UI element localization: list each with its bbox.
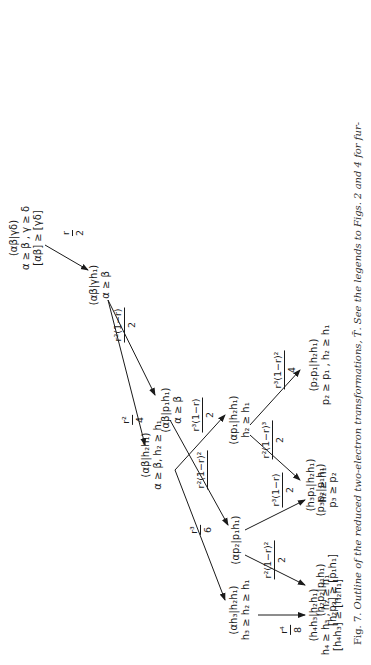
edge-weight-e-root: r2 xyxy=(60,230,85,236)
edge-arrow xyxy=(175,470,225,600)
caption-label: Fig. 7. xyxy=(352,613,363,645)
node-n-h4h3-h2h1: (h₄h₃|h₂h₁)h₄ ≥ h₃ , h₂ ≥ h₁[h₄h₃] ≥ [h₂… xyxy=(308,575,344,655)
node-label: α ≥ β, h₂ ≥ h₁ xyxy=(152,420,164,490)
node-n-h3p1-h2h1: (h₃p₁|h₂h₁)h₂ ≥ h₁ xyxy=(305,459,329,512)
edge-weight-e-up3: r²(1−r)²2 xyxy=(262,541,287,580)
fraction-denominator: 2 xyxy=(125,307,137,342)
fraction-denominator: 4 xyxy=(133,415,145,425)
node-label: h₃ ≥ h₂ ≥ h₁ xyxy=(240,580,252,641)
node-n-ap2-p1h1: (αp₂|p₁h₁) xyxy=(230,516,242,565)
node-label: p₂ ≥ p₁ , h₂ ≥ h₁ xyxy=(320,325,332,405)
node-label: (h₄h₃|h₂h₁) xyxy=(308,575,320,655)
fraction-denominator: 2 xyxy=(203,397,215,432)
diagram-stage: (αβ|γδ)α ≥ β , γ ≥ δ[αβ] ≥ [γδ](αβ|γh₁)α… xyxy=(0,0,371,665)
node-n-ab-h2h1: (αβ|h₂h₁)α ≥ β, h₂ ≥ h₁ xyxy=(140,420,164,490)
node-label: (h₃p₁|h₂h₁) xyxy=(305,459,317,512)
node-label: h₂ ≥ h₁ xyxy=(317,459,329,512)
fraction-denominator: 6 xyxy=(201,525,213,535)
node-label: (αβ|h₂h₁) xyxy=(140,420,152,490)
edge-weight-e-up2: r²(1−r)² xyxy=(195,451,209,490)
fraction-numerator: r²(1−r)² xyxy=(262,541,275,580)
node-label: (αβ|γδ) xyxy=(8,206,20,270)
node-n-ah3-h2h1: (αh₃|h₂h₁)h₃ ≥ h₂ ≥ h₁ xyxy=(228,580,252,641)
fraction-numerator: r²(1−r)² xyxy=(195,451,208,490)
node-root: (αβ|γδ)α ≥ β , γ ≥ δ[αβ] ≥ [γδ] xyxy=(8,206,44,270)
fraction-numerator: r³ xyxy=(188,525,201,535)
fraction-numerator: r³(1−r) xyxy=(190,397,203,432)
node-label: α ≥ β xyxy=(100,265,112,305)
node-n-ab-gh1: (αβ|γh₁)α ≥ β xyxy=(88,265,112,305)
node-label: (αβ|γh₁) xyxy=(88,265,100,305)
fraction-numerator: r²(1−r)³ xyxy=(260,421,273,460)
fraction-denominator: 8 xyxy=(291,625,303,635)
edge-weight-e-mid1: r³(1−r)2 xyxy=(190,397,215,432)
edge-arrow xyxy=(45,245,88,270)
node-label: [h₄h₃] ≥ [h₂h₁] xyxy=(332,575,344,655)
edge-weight-e-up1: r²(1−r)2 xyxy=(112,307,137,342)
node-label: [αβ] ≥ [γδ] xyxy=(32,206,44,270)
figure-caption: Fig. 7. Outline of the reduced two-elect… xyxy=(352,122,363,645)
fraction-numerator: r xyxy=(60,230,73,236)
fraction-numerator: r⁴ xyxy=(278,625,291,635)
node-n-ap1-h2h1: (αp₁|h₂h₁)h₂ ≥ h₁ xyxy=(228,396,252,445)
fraction-denominator: 2 xyxy=(273,421,285,460)
fraction-denominator: 4 xyxy=(285,351,297,390)
node-label: α ≥ β , γ ≥ δ xyxy=(20,206,32,270)
fraction-denominator xyxy=(208,451,209,490)
edge-weight-e-mid2b: r³(1−r)2 xyxy=(270,472,295,507)
node-label: (p₂p₁|h₂h₁) xyxy=(308,325,320,405)
fraction-numerator: r²(1−r) xyxy=(112,307,125,342)
node-label: h₄ ≥ h₃ , h₂ ≥ h₁ xyxy=(320,575,332,655)
fraction-denominator: 2 xyxy=(275,541,287,580)
edge-weight-e-down2: r³6 xyxy=(188,525,213,535)
node-label: (αh₃|h₂h₁) xyxy=(228,580,240,641)
fraction-numerator: r³(1−r)² xyxy=(272,351,285,390)
edge-weight-e-mid2: r³(1−r)²4 xyxy=(272,351,297,390)
caption-text: Outline of the reduced two-electron tran… xyxy=(352,122,363,610)
node-label: (αp₁|h₂h₁) xyxy=(228,396,240,445)
node-label: α ≥ β xyxy=(172,388,184,433)
edge-weight-e-up3b: r²(1−r)³2 xyxy=(260,421,285,460)
fraction-numerator: r³(1−r) xyxy=(270,472,283,507)
node-n-p2p1-h2h1: (p₂p₁|h₂h₁)p₂ ≥ p₁ , h₂ ≥ h₁ xyxy=(308,325,332,405)
edge-weight-e-down1: r²4 xyxy=(120,415,145,425)
edge-weight-e-last: r⁴8 xyxy=(278,625,303,635)
fraction-denominator: 2 xyxy=(73,230,85,236)
fraction-numerator: r² xyxy=(120,415,133,425)
node-label: (αp₂|p₁h₁) xyxy=(230,516,242,565)
node-label: h₂ ≥ h₁ xyxy=(240,396,252,445)
fraction-denominator: 2 xyxy=(283,472,295,507)
